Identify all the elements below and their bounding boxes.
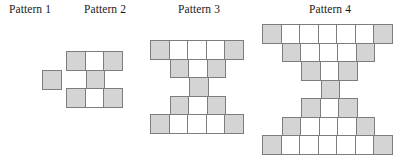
- shaded-square: [207, 59, 227, 79]
- shaded-square: [170, 59, 190, 79]
- pattern-sequence-figure: Pattern 1Pattern 2Pattern 3Pattern 4: [0, 0, 414, 157]
- blank-square: [355, 24, 375, 44]
- blank-square: [281, 135, 301, 155]
- blank-square: [319, 43, 339, 63]
- pattern-row: [170, 96, 243, 116]
- blank-square: [318, 135, 338, 155]
- shaded-square: [170, 96, 190, 116]
- shaded-square: [262, 24, 282, 44]
- shaded-square: [103, 88, 123, 108]
- blank-square: [318, 24, 338, 44]
- blank-square: [281, 24, 301, 44]
- shaded-square: [103, 51, 123, 71]
- shaded-square: [338, 61, 358, 81]
- blank-square: [206, 40, 226, 60]
- blank-square: [206, 114, 226, 134]
- blank-square: [187, 40, 207, 60]
- blank-square: [169, 40, 189, 60]
- pattern-row: [189, 77, 243, 97]
- pattern-row: [150, 114, 243, 134]
- pattern-grid-3: [150, 40, 243, 133]
- pattern-row: [282, 117, 392, 137]
- blank-square: [320, 61, 340, 81]
- blank-square: [320, 98, 340, 118]
- shaded-square: [262, 135, 282, 155]
- pattern-row: [86, 70, 122, 90]
- pattern-grid-2: [66, 51, 122, 107]
- shaded-square: [373, 135, 393, 155]
- shaded-square: [66, 51, 86, 71]
- blank-square: [188, 96, 208, 116]
- shaded-square: [207, 96, 227, 116]
- pattern-grid-1: [42, 70, 61, 89]
- pattern-label-4: Pattern 4: [309, 3, 351, 16]
- pattern-label-1: Pattern 1: [9, 3, 51, 16]
- blank-square: [355, 135, 375, 155]
- blank-square: [336, 135, 356, 155]
- pattern-row: [66, 88, 122, 108]
- blank-square: [319, 117, 339, 137]
- shaded-square: [282, 117, 302, 137]
- shaded-square: [301, 61, 321, 81]
- shaded-square: [356, 43, 376, 63]
- blank-square: [85, 88, 105, 108]
- pattern-row: [66, 51, 122, 71]
- pattern-row: [262, 135, 392, 155]
- shaded-square: [373, 24, 393, 44]
- pattern-row: [150, 40, 243, 60]
- pattern-row: [282, 43, 392, 63]
- shaded-square: [189, 77, 209, 97]
- pattern-label-2: Pattern 2: [84, 3, 126, 16]
- shaded-square: [150, 40, 170, 60]
- pattern-row: [321, 80, 392, 100]
- blank-square: [299, 24, 319, 44]
- shaded-square: [150, 114, 170, 134]
- blank-square: [336, 24, 356, 44]
- shaded-square: [66, 88, 86, 108]
- shaded-square: [86, 70, 106, 90]
- blank-square: [85, 51, 105, 71]
- pattern-label-3: Pattern 3: [178, 3, 220, 16]
- shaded-square: [282, 43, 302, 63]
- blank-square: [300, 43, 320, 63]
- pattern-grid-4: [262, 24, 392, 154]
- shaded-square: [301, 98, 321, 118]
- shaded-square: [224, 114, 244, 134]
- shaded-square: [42, 70, 62, 90]
- blank-square: [187, 114, 207, 134]
- shaded-square: [224, 40, 244, 60]
- blank-square: [188, 59, 208, 79]
- pattern-row: [42, 70, 61, 90]
- shaded-square: [321, 80, 341, 100]
- blank-square: [337, 43, 357, 63]
- shaded-square: [338, 98, 358, 118]
- pattern-row: [301, 61, 392, 81]
- shaded-square: [356, 117, 376, 137]
- pattern-row: [170, 59, 243, 79]
- pattern-row: [262, 24, 392, 44]
- blank-square: [169, 114, 189, 134]
- blank-square: [300, 117, 320, 137]
- blank-square: [299, 135, 319, 155]
- pattern-row: [301, 98, 392, 118]
- blank-square: [337, 117, 357, 137]
